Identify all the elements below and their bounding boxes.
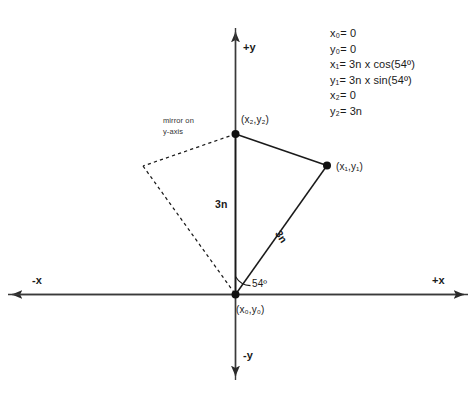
mirror-annotation-line1: mirror on — [163, 116, 194, 127]
equation-y0: y₀= 0 — [330, 43, 415, 55]
axis-label-positive-x: +x — [432, 273, 445, 288]
vertex1-coordinate-label: (x₁,y₁) — [336, 160, 363, 174]
vertex2-point-dot — [232, 130, 240, 138]
axis-label-negative-y: -y — [243, 348, 253, 363]
angle-arc-54 — [236, 277, 251, 286]
equation-y2: y₂= 3n — [330, 105, 415, 117]
solid-triangle — [236, 134, 328, 295]
axis-label-negative-x: -x — [32, 273, 42, 288]
mirrored-triangle-dashed — [143, 134, 236, 295]
angle-label-54: 54º — [252, 277, 267, 291]
origin-point-dot — [232, 291, 240, 299]
vertical-length-label: 3n — [215, 197, 227, 211]
figure-canvas: +y -y +x -x (x₂,y₂) (x₁,y₁) (x₀,y₀) mirr… — [0, 0, 476, 404]
axis-label-positive-y: +y — [243, 40, 256, 55]
vertex2-coordinate-label: (x₂,y₂) — [241, 113, 269, 127]
mirror-annotation-line2: y-axis — [163, 127, 183, 138]
equation-y1: y₁= 3n x sin(54º) — [330, 74, 415, 86]
equation-x1: x₁= 3n x cos(54º) — [330, 58, 415, 70]
equation-x0: x₀= 0 — [330, 27, 415, 39]
equation-x2: x₂= 0 — [330, 89, 415, 101]
equations-panel: x₀= 0 y₀= 0 x₁= 3n x cos(54º) y₁= 3n x s… — [330, 27, 415, 117]
vertex1-point-dot — [323, 162, 331, 170]
origin-coordinate-label: (x₀,y₀) — [236, 303, 264, 317]
